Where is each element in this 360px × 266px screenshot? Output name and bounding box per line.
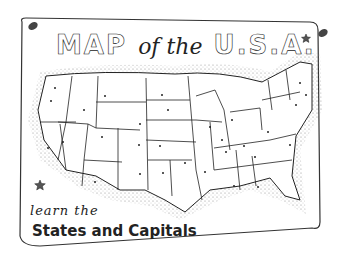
title-map: MAP	[56, 30, 127, 60]
subtitle-states-capitals: States and Capitals	[32, 222, 197, 240]
subtitle-learn: learn the	[30, 203, 99, 218]
map-poster: MAP of the U.S.A. learn the States and C…	[0, 0, 360, 266]
title-usa: U.S.A.	[214, 30, 316, 60]
title-of-the: of the	[138, 34, 202, 59]
pushpin-icon	[317, 27, 329, 38]
poster-title: MAP of the U.S.A.	[56, 30, 316, 60]
